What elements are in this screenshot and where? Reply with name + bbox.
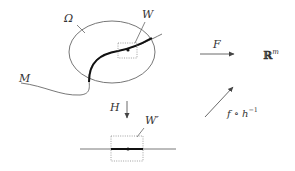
w-label: W <box>142 8 155 21</box>
h-label: H <box>109 101 120 114</box>
w-prime-label: W′ <box>145 114 159 127</box>
composite-base: f ∘ h <box>226 108 248 119</box>
manifold-label: M <box>18 72 31 85</box>
manifold-chart-diagram: Ω M W F ℝm f ∘ h−1 H W′ <box>0 0 295 171</box>
target-space-label: ℝm <box>263 48 279 62</box>
w-prime-leader <box>137 128 144 137</box>
manifold-curve-in-omega <box>89 38 152 82</box>
composite-label: f ∘ h−1 <box>226 106 258 119</box>
target-space-exponent: m <box>272 48 279 56</box>
f-label: F <box>212 38 221 51</box>
point-on-manifold <box>126 48 129 51</box>
image-point <box>126 147 129 150</box>
composite-exponent: −1 <box>248 106 258 114</box>
w-leader <box>135 22 145 43</box>
omega-label: Ω <box>63 12 73 25</box>
